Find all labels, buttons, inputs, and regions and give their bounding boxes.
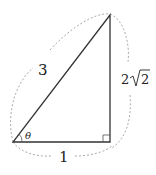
opposite-coef-label: 2 [121, 72, 129, 87]
hypotenuse-brace [11, 14, 110, 142]
angle-arc [19, 134, 22, 142]
triangle-diagram: 3 2 2 1 θ [0, 0, 156, 175]
adjacent-label: 1 [59, 148, 69, 166]
angle-label: θ [25, 130, 31, 141]
triangle [13, 15, 110, 142]
hypotenuse-label: 3 [38, 61, 48, 79]
right-angle-marker [103, 135, 110, 142]
opposite-radicand-label: 2 [141, 72, 149, 87]
